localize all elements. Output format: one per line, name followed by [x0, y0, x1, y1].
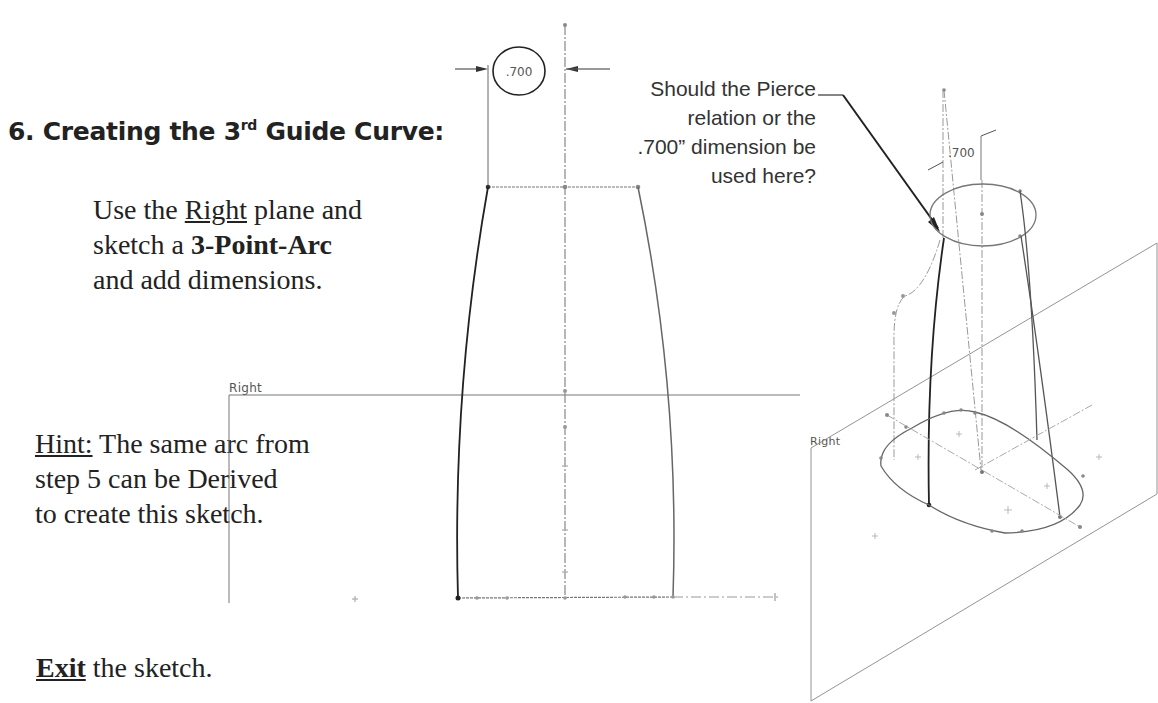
dimension-value-2d: .700 [506, 65, 533, 79]
right-guide-arc [638, 187, 674, 597]
dimension-value-3d: .700 [948, 146, 975, 160]
cad-drawing: .700 .700 [0, 0, 1158, 703]
view-3d: .700 [811, 88, 1157, 701]
callout-leader [818, 95, 940, 232]
left-guide-arc [457, 187, 488, 598]
right-plane-outline [229, 395, 800, 603]
left-guide-curve-3d [929, 238, 944, 505]
sketch-2d: .700 [229, 23, 800, 603]
